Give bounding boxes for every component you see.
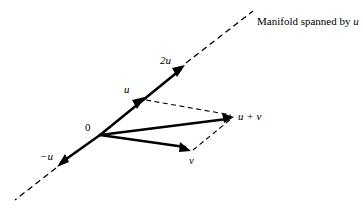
figure-container: 2u u −u 0 v u + v Manifold spanned by u	[0, 0, 363, 211]
label-v: v	[189, 155, 194, 166]
caption-manifold-spanned-by-u: Manifold spanned by u	[257, 16, 359, 27]
vector-diagram	[0, 0, 363, 211]
label-u: u	[124, 84, 130, 95]
label-2u: 2u	[160, 55, 171, 66]
caption-italic-symbol: u	[353, 15, 359, 27]
caption-text: Manifold spanned by	[257, 15, 353, 27]
canvas-background	[0, 0, 363, 211]
label-u-plus-v: u + v	[238, 111, 261, 122]
label-origin: 0	[85, 122, 91, 133]
label-minus-u: −u	[40, 151, 53, 162]
